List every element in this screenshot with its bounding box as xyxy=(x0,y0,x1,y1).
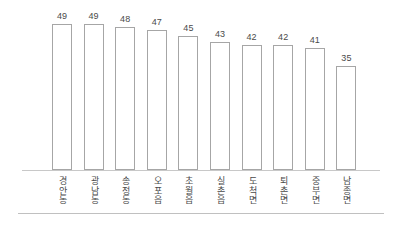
bar xyxy=(178,36,198,170)
bar-value-label: 47 xyxy=(143,17,171,27)
bar-value-label: 41 xyxy=(301,35,329,45)
bar xyxy=(84,24,104,170)
bar xyxy=(147,30,167,170)
bar-value-label: 45 xyxy=(174,23,202,33)
bar-value-label: 43 xyxy=(206,29,234,39)
category-label: 초월읍 xyxy=(183,176,194,205)
plot-area: 49494847454342424135 경안동광남동송정동오포읍초월읍실촌읍도… xyxy=(0,0,398,229)
bar xyxy=(336,66,356,170)
bar-value-label: 42 xyxy=(269,32,297,42)
category-label: 실촌읍 xyxy=(215,176,226,205)
bar-chart: 49494847454342424135 경안동광남동송정동오포읍초월읍실촌읍도… xyxy=(0,0,398,229)
bar xyxy=(210,42,230,170)
category-label: 경안동 xyxy=(57,176,68,205)
bar-value-label: 49 xyxy=(48,11,76,21)
bar xyxy=(273,45,293,170)
bar xyxy=(242,45,262,170)
bar xyxy=(52,24,72,170)
category-label: 남종면 xyxy=(341,176,352,205)
category-label: 도척면 xyxy=(247,176,258,205)
bar-value-label: 48 xyxy=(111,14,139,24)
category-label: 중부면 xyxy=(310,176,321,205)
bar-value-label: 42 xyxy=(238,32,266,42)
category-label: 광남동 xyxy=(89,176,100,205)
category-label: 오포읍 xyxy=(152,176,163,205)
category-label: 송정동 xyxy=(120,176,131,205)
bottom-rule xyxy=(18,213,384,214)
bar xyxy=(115,27,135,170)
bar-value-label: 35 xyxy=(332,53,360,63)
bar-value-label: 49 xyxy=(80,11,108,21)
category-label: 퇴촌면 xyxy=(278,176,289,205)
category-axis-line xyxy=(22,170,380,171)
bar xyxy=(305,48,325,170)
